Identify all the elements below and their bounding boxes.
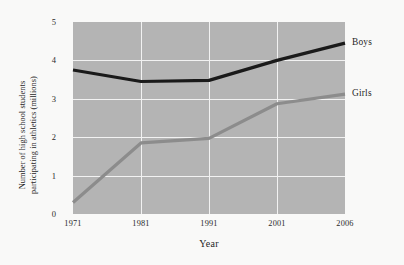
x-axis-label: Year — [73, 238, 345, 249]
x-tick-label: 2006 — [322, 220, 368, 228]
chart-figure: 5 4 3 2 1 0 Number of high school studen… — [0, 0, 404, 265]
legend-label-girls: Girls — [352, 89, 372, 98]
plot-area — [73, 22, 345, 214]
series-lines — [73, 22, 345, 214]
y-axis-label-line2: participating in athletics (millions) — [28, 39, 39, 231]
line-series-girls — [73, 94, 345, 202]
y-axis-label-line1: Number of high school students — [17, 39, 28, 231]
y-axis-label: Number of high school students participa… — [17, 39, 43, 231]
x-tick-label: 2001 — [254, 220, 300, 228]
legend-label-boys: Boys — [352, 38, 372, 47]
x-tick-label: 1971 — [50, 220, 96, 228]
x-tick-label: 1981 — [118, 220, 164, 228]
y-tick-label: 5 — [34, 18, 56, 27]
x-tick-label: 1991 — [186, 220, 232, 228]
line-series-boys — [73, 43, 345, 81]
